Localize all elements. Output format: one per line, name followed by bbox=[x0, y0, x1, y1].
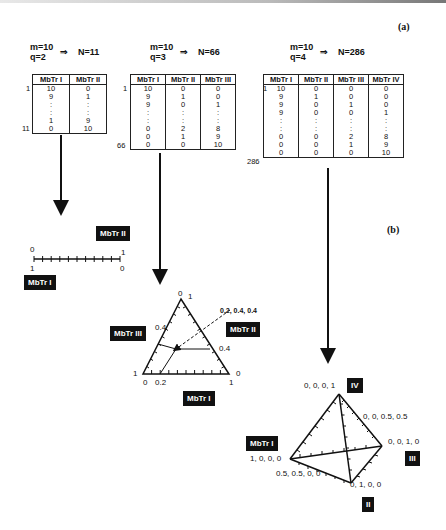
tetra-badge-mbtr1: MbTr I bbox=[246, 436, 278, 451]
tri-right-bottom: 0 bbox=[236, 369, 240, 378]
line-label-mbtr1: MbTr I bbox=[24, 275, 56, 290]
tetra-bottom-mid-label: 0.5, 0.5, 0, 0 bbox=[276, 469, 320, 478]
tri-label-mbtr3: MbTr III bbox=[110, 326, 146, 341]
tetra-right-vertex-label: 0, 0, 1, 0 bbox=[388, 437, 419, 446]
tri-base-tick: 0.2 bbox=[155, 378, 166, 387]
diagram-graphics bbox=[0, 0, 446, 530]
tri-base-left: 0 bbox=[143, 378, 147, 387]
tri-left-mid: 0.4 bbox=[155, 323, 166, 332]
tetra-badge-iv: IV bbox=[347, 378, 363, 393]
line-label-mbtr2: MbTr II bbox=[96, 226, 130, 241]
tri-apex-right: 1 bbox=[188, 292, 192, 301]
tri-right-mid: 0.4 bbox=[219, 344, 230, 353]
tetra-badge-iii: III bbox=[405, 451, 420, 466]
line-bottom-left-tick: 1 bbox=[30, 264, 34, 273]
line-top-right-tick: 1 bbox=[121, 248, 125, 257]
tri-apex-left: 0 bbox=[178, 289, 182, 298]
ternary-triangle bbox=[143, 299, 230, 374]
tri-point-label: 0.2, 0.4, 0.4 bbox=[220, 307, 257, 314]
tetra-badge-ii: II bbox=[362, 497, 374, 512]
tri-left-bottom: 1 bbox=[133, 369, 137, 378]
line-bottom-right-tick: 0 bbox=[120, 264, 124, 273]
tetra-edge-mid-label: 0, 0, 0.5, 0.5 bbox=[363, 412, 407, 421]
tri-base-right: 1 bbox=[229, 378, 233, 387]
tri-label-mbtr2: MbTr II bbox=[226, 322, 260, 337]
tri-label-mbtr1: MbTr I bbox=[183, 391, 215, 406]
tetra-bottom-vertex-label: 0, 1, 0, 0 bbox=[350, 480, 381, 489]
tetra-apex-label: 0, 0, 0, 1 bbox=[304, 381, 335, 390]
tetra-left-vertex-label: 1, 0, 0, 0 bbox=[250, 454, 281, 463]
line-simplex bbox=[34, 256, 120, 262]
line-top-left-tick: 0 bbox=[30, 245, 34, 254]
